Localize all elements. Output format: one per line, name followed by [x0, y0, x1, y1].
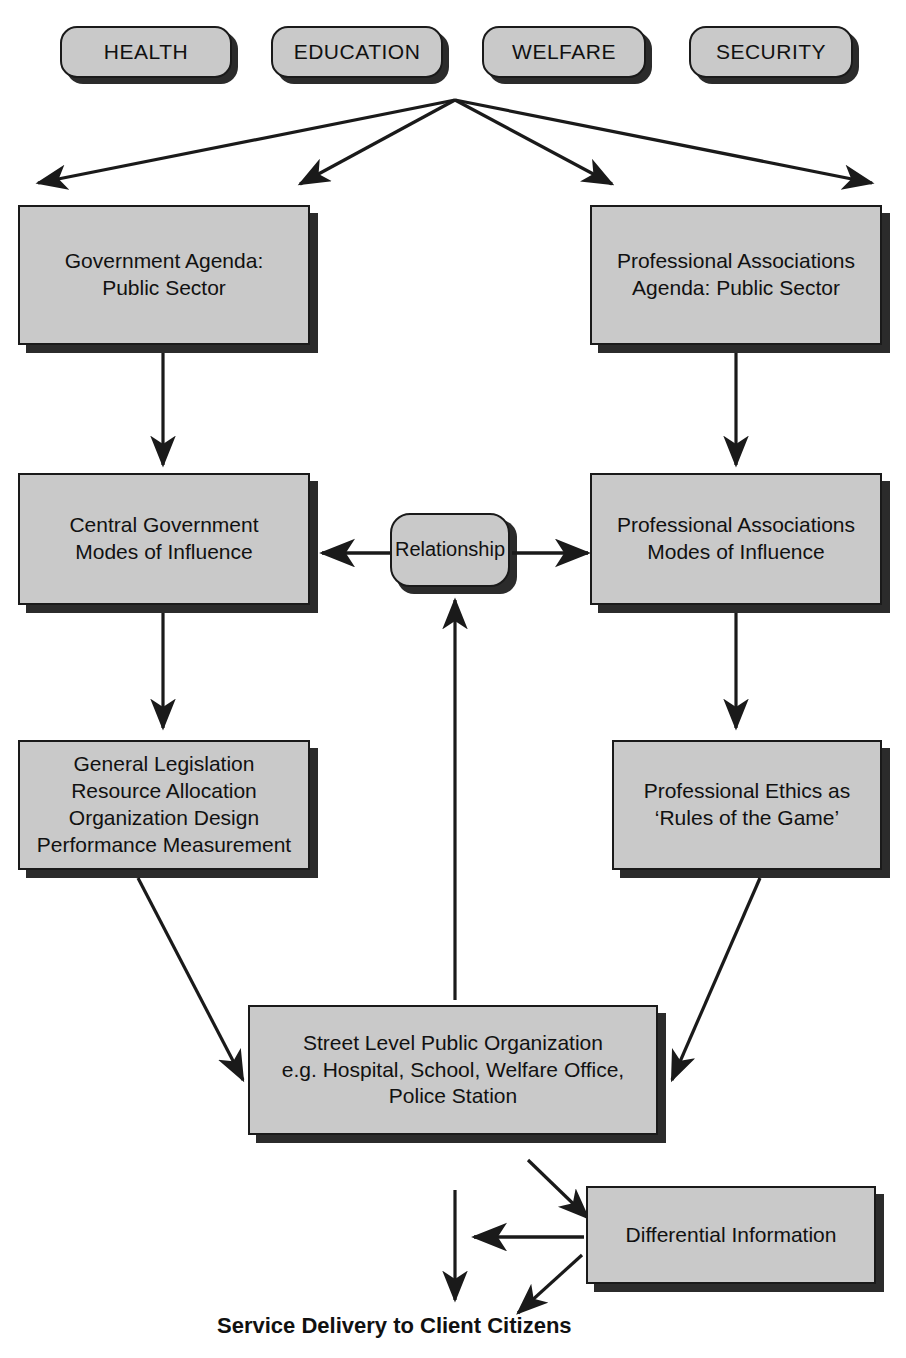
arrow-instruments-to-street-level [138, 878, 243, 1080]
node-professional-associations-modes-label: Professional Associations Modes of Influ… [611, 512, 861, 566]
node-relationship[interactable]: Relationship [390, 513, 510, 587]
sector-pill-health-label: HEALTH [98, 39, 194, 66]
node-professional-associations-modes[interactable]: Professional Associations Modes of Influ… [590, 473, 882, 605]
arrow-ethics-to-street-level [672, 878, 760, 1080]
node-differential-information-label: Differential Information [620, 1222, 843, 1249]
sector-pill-welfare[interactable]: WELFARE [482, 26, 646, 78]
sector-pill-education[interactable]: EDUCATION [271, 26, 443, 78]
node-street-level-organization[interactable]: Street Level Public Organization e.g. Ho… [248, 1005, 658, 1135]
node-government-agenda-label: Government Agenda: Public Sector [59, 248, 269, 302]
node-central-government-modes[interactable]: Central Government Modes of Influence [18, 473, 310, 605]
diagram-canvas: HEALTH EDUCATION WELFARE SECURITY Govern… [0, 0, 906, 1358]
node-government-instruments-label: General Legislation Resource Allocation … [31, 751, 297, 859]
sector-fan-arrows [38, 100, 872, 184]
node-central-government-modes-label: Central Government Modes of Influence [63, 512, 264, 566]
sector-pill-education-label: EDUCATION [288, 39, 427, 66]
sector-pill-welfare-label: WELFARE [506, 39, 622, 66]
sector-pill-security[interactable]: SECURITY [689, 26, 853, 78]
node-relationship-label: Relationship [389, 537, 511, 563]
node-professional-ethics[interactable]: Professional Ethics as ‘Rules of the Gam… [612, 740, 882, 870]
sector-pill-health[interactable]: HEALTH [60, 26, 232, 78]
sector-pill-security-label: SECURITY [710, 39, 832, 66]
caption-service-delivery-text: Service Delivery to Client Citizens [217, 1313, 572, 1338]
node-government-instruments[interactable]: General Legislation Resource Allocation … [18, 740, 310, 870]
node-differential-information[interactable]: Differential Information [586, 1186, 876, 1284]
node-professional-associations-agenda[interactable]: Professional Associations Agenda: Public… [590, 205, 882, 345]
arrow-street-level-to-differential-info [528, 1160, 588, 1218]
caption-service-delivery: Service Delivery to Client Citizens [217, 1313, 572, 1339]
node-government-agenda[interactable]: Government Agenda: Public Sector [18, 205, 310, 345]
arrow-differential-info-to-service-delivery [518, 1255, 582, 1313]
node-professional-ethics-label: Professional Ethics as ‘Rules of the Gam… [638, 778, 857, 832]
node-street-level-organization-label: Street Level Public Organization e.g. Ho… [276, 1030, 630, 1111]
connector-layer [0, 0, 906, 1358]
node-professional-associations-agenda-label: Professional Associations Agenda: Public… [611, 248, 861, 302]
